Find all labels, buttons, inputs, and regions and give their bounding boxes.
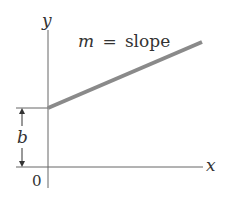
slope-annotation: m = slope	[78, 31, 170, 51]
x-axis-label: x	[206, 155, 216, 175]
intercept-label: b	[17, 127, 28, 147]
y-axis-label: y	[41, 10, 52, 30]
slope-word: slope	[125, 31, 170, 51]
slope-equals: =	[102, 31, 116, 51]
slope-symbol: m	[78, 31, 94, 51]
origin-label: 0	[32, 172, 42, 190]
slope-line	[48, 42, 202, 108]
slope-intercept-diagram: y x 0 b m = slope	[0, 0, 228, 198]
